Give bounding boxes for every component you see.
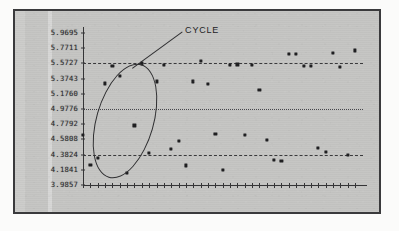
y-axis-tick <box>81 78 85 79</box>
x-axis-tick <box>304 183 305 188</box>
scan-artifact-left <box>15 11 25 212</box>
x-axis-tick <box>296 183 297 188</box>
data-point <box>287 52 290 55</box>
x-axis-tick <box>311 183 312 188</box>
y-axis-tick <box>81 169 85 170</box>
data-point <box>339 65 342 68</box>
data-point <box>324 151 327 154</box>
y-axis-tick <box>81 48 85 49</box>
data-point <box>250 63 253 66</box>
data-point <box>221 169 224 172</box>
data-point <box>331 52 334 55</box>
data-point <box>184 164 187 167</box>
x-axis-tick <box>105 183 106 188</box>
x-axis-tick <box>281 183 282 188</box>
x-axis-line <box>83 185 367 186</box>
x-axis-tick <box>157 183 158 188</box>
y-axis-tick <box>81 139 85 140</box>
y-axis-tick <box>81 33 85 34</box>
data-point <box>111 64 114 67</box>
data-point <box>81 133 84 136</box>
data-point <box>162 63 165 66</box>
y-axis-tick <box>81 93 85 94</box>
x-axis-tick <box>134 183 135 188</box>
x-axis-tick <box>340 183 341 188</box>
data-point <box>317 146 320 149</box>
chart-frame: 5.96955.77115.57275.37435.17604.97764.77… <box>13 9 381 214</box>
x-axis-tick <box>179 183 180 188</box>
data-point <box>228 63 231 66</box>
x-axis-tick <box>355 183 356 188</box>
x-axis-tick <box>83 183 84 188</box>
x-axis-tick <box>318 183 319 188</box>
x-axis-tick <box>252 183 253 188</box>
data-point <box>353 49 356 52</box>
data-point <box>192 80 195 83</box>
data-point <box>206 82 209 85</box>
x-axis-tick <box>142 183 143 188</box>
data-point <box>236 63 239 66</box>
data-point <box>199 59 202 62</box>
x-axis-tick <box>289 183 290 188</box>
data-point <box>302 64 305 67</box>
x-axis-tick <box>171 183 172 188</box>
x-axis-tick <box>259 183 260 188</box>
data-point <box>103 82 106 85</box>
data-point <box>346 153 349 156</box>
scan-artifact-band <box>48 11 52 212</box>
x-axis-tick <box>215 183 216 188</box>
x-axis-tick <box>127 183 128 188</box>
x-axis-tick <box>333 183 334 188</box>
x-axis-tick <box>164 183 165 188</box>
x-axis-tick <box>98 183 99 188</box>
x-axis-tick <box>112 183 113 188</box>
data-point <box>309 65 312 68</box>
data-point <box>89 164 92 167</box>
y-axis-tick <box>81 124 85 125</box>
data-point <box>295 52 298 55</box>
cycle-annotation-label: CYCLE <box>185 25 219 35</box>
x-axis-tick <box>230 183 231 188</box>
control-limit-ucl <box>83 63 363 64</box>
data-point <box>148 151 151 154</box>
data-point <box>265 139 268 142</box>
x-axis-tick <box>223 183 224 188</box>
x-axis-tick <box>245 183 246 188</box>
x-axis-tick <box>90 183 91 188</box>
x-axis-tick <box>186 183 187 188</box>
data-point <box>177 139 180 142</box>
x-axis-tick <box>193 183 194 188</box>
x-axis-tick <box>267 183 268 188</box>
data-point <box>273 158 276 161</box>
chart-plot-background <box>15 11 379 212</box>
x-axis-tick <box>237 183 238 188</box>
x-axis-tick <box>149 183 150 188</box>
x-axis-tick <box>201 183 202 188</box>
x-axis-tick <box>274 183 275 188</box>
data-point <box>280 159 283 162</box>
data-point <box>214 132 217 135</box>
y-axis-line <box>83 27 84 185</box>
x-axis-tick <box>326 183 327 188</box>
x-axis-tick <box>208 183 209 188</box>
x-axis-tick <box>348 183 349 188</box>
chart-figure: 5.96955.77115.57275.37435.17604.97764.77… <box>0 0 399 231</box>
data-point <box>170 147 173 150</box>
data-point <box>243 133 246 136</box>
data-point <box>258 89 261 92</box>
x-axis-tick <box>120 183 121 188</box>
